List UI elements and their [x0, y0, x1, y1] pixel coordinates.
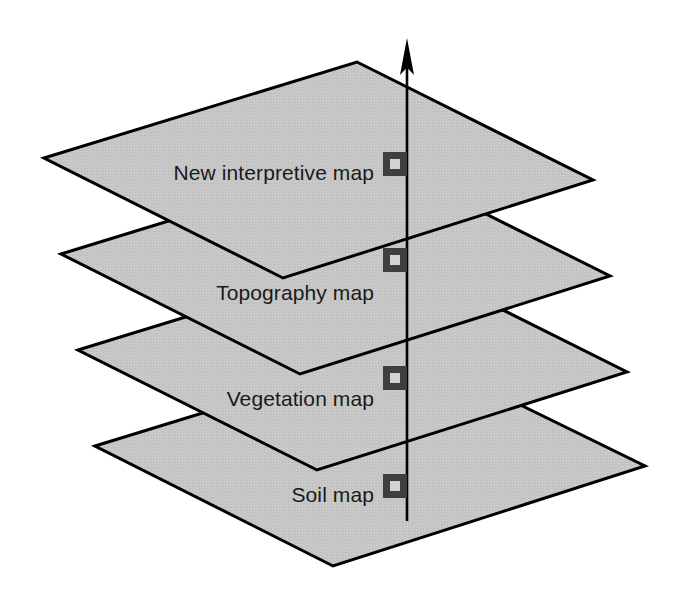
layer-label-new-interpretive-map: New interpretive map [174, 162, 374, 183]
registration-marker-new-interpretive-map [383, 152, 407, 176]
registration-marker-vegetation-map [383, 366, 407, 390]
marker-inner-square [390, 481, 400, 491]
layer-label-vegetation-map: Vegetation map [227, 388, 374, 409]
marker-inner-square [390, 373, 400, 383]
registration-marker-topography-map [383, 248, 407, 272]
layer-label-topography-map: Topography map [216, 282, 374, 303]
registration-marker-soil-map [383, 474, 407, 498]
layer-stack-diagram: New interpretive map Topography map Vege… [0, 0, 685, 602]
marker-inner-square [390, 255, 400, 265]
layer-label-soil-map: Soil map [291, 484, 374, 505]
marker-inner-square [390, 159, 400, 169]
